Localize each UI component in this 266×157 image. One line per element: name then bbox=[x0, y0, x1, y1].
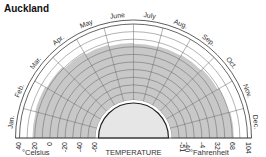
celsius-tick: -40 bbox=[76, 142, 83, 152]
month-label: Sep. bbox=[200, 33, 216, 48]
celsius-tick: 0 bbox=[46, 142, 53, 146]
polar-temperature-chart: Jan.Feb.Mar.Apr.MayJuneJulyAug.Sep.Oct.N… bbox=[0, 0, 266, 157]
month-label: May bbox=[79, 18, 95, 31]
month-label: June bbox=[109, 11, 125, 20]
celsius-tick: -20 bbox=[61, 142, 68, 152]
fahrenheit-tick: 68 bbox=[229, 142, 236, 150]
month-label: Jan. bbox=[7, 115, 16, 129]
month-label: Mar. bbox=[28, 55, 42, 70]
fahrenheit-label: °Fahrenheit bbox=[190, 148, 230, 157]
fahrenheit-tick: 104 bbox=[245, 142, 252, 154]
center-label: TEMPERATURE bbox=[105, 148, 161, 157]
month-label: Aug. bbox=[172, 18, 188, 31]
celsius-label: °Celsius bbox=[22, 148, 50, 157]
month-label: Oct. bbox=[225, 55, 238, 69]
month-label: Apr. bbox=[51, 33, 66, 47]
month-label: Dec. bbox=[252, 114, 261, 129]
celsius-tick: -60 bbox=[91, 142, 98, 152]
month-label: July bbox=[143, 11, 157, 21]
